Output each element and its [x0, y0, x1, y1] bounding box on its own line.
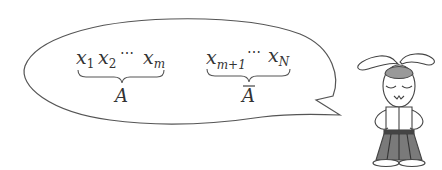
- rabbit-right-ear: [400, 54, 434, 65]
- label-a-bar: A: [240, 85, 255, 106]
- rabbit-left-foot: [373, 160, 399, 167]
- term-ellipsis-2: ⋯: [247, 44, 261, 60]
- label-a: A: [113, 85, 128, 106]
- rabbit-right-foot: [399, 160, 425, 167]
- term-ellipsis: ⋯: [120, 45, 134, 61]
- rabbit-head-patch: [385, 67, 413, 79]
- speech-bubble: [24, 19, 340, 124]
- rabbit-character: [358, 54, 435, 167]
- rabbit-belt: [384, 130, 414, 134]
- diagram-canvas: x1 x2 ⋯ xm A xm+1 ⋯ xN A: [0, 0, 442, 170]
